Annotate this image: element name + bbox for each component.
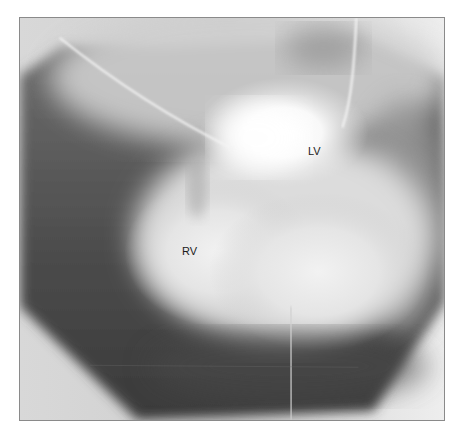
rv-label: RV [182, 245, 197, 257]
lv-label: LV [308, 145, 321, 157]
angiogram-graphic [20, 18, 444, 420]
angiogram-image: LV RV [19, 17, 445, 421]
